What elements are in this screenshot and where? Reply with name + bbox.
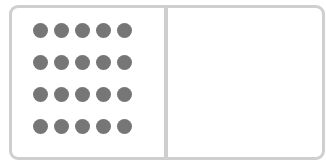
dot (75, 119, 90, 134)
dot (75, 55, 90, 70)
dot (33, 23, 48, 38)
dot (75, 23, 90, 38)
dot (96, 119, 111, 134)
two-part-box (9, 5, 325, 160)
dot (96, 23, 111, 38)
dot (54, 119, 69, 134)
dot (117, 55, 132, 70)
left-panel-dots (12, 8, 164, 157)
dot (96, 87, 111, 102)
dot (75, 87, 90, 102)
dot (117, 87, 132, 102)
dot (117, 119, 132, 134)
dot (96, 55, 111, 70)
dot (54, 23, 69, 38)
dot (117, 23, 132, 38)
right-panel-empty (168, 8, 322, 157)
dot (54, 55, 69, 70)
dot (33, 55, 48, 70)
dot (33, 119, 48, 134)
dot (54, 87, 69, 102)
dot (33, 87, 48, 102)
